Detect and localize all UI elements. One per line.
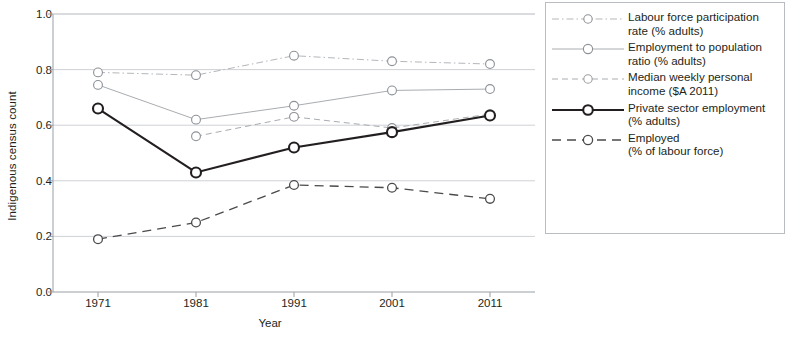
data-point <box>388 57 397 66</box>
legend-line-sample <box>550 10 626 28</box>
data-point <box>192 71 201 80</box>
data-point <box>388 183 397 192</box>
data-point <box>289 142 299 152</box>
legend-item-employment-to-population[interactable]: Employment to population ratio (% adults… <box>550 40 780 67</box>
legend-label-private-sector-employment: Private sector employment (% adults) <box>626 101 765 128</box>
legend-item-private-sector-employment[interactable]: Private sector employment (% adults) <box>550 101 780 128</box>
data-point <box>486 60 495 69</box>
data-point <box>192 115 201 124</box>
data-point <box>192 132 201 141</box>
legend-label-median-weekly-income: Median weekly personal income ($A 2011) <box>626 70 752 97</box>
legend-key-private-sector-employment <box>550 101 626 119</box>
data-point <box>191 167 201 177</box>
legend-label-employment-to-population: Employment to population ratio (% adults… <box>626 40 762 67</box>
data-point <box>93 104 103 114</box>
legend-line-sample <box>550 40 626 58</box>
data-point <box>486 194 495 203</box>
legend-item-employed[interactable]: Employed (% of labour force) <box>550 131 780 158</box>
data-point <box>387 127 397 137</box>
data-point <box>388 86 397 95</box>
legend-key-employed <box>550 131 626 149</box>
data-point <box>192 218 201 227</box>
legend-label-labour-force-participation: Labour force participation rate (% adult… <box>626 10 759 37</box>
chart-plot-svg <box>0 0 540 337</box>
data-point <box>485 110 495 120</box>
chart-legend: Labour force participation rate (% adult… <box>545 2 785 234</box>
data-point <box>94 68 103 77</box>
legend-line-sample <box>550 101 626 119</box>
legend-item-median-weekly-income[interactable]: Median weekly personal income ($A 2011) <box>550 70 780 97</box>
data-point <box>290 112 299 121</box>
chart-figure: Indigenous census count Year 1.0 0.8 0.6… <box>0 0 789 337</box>
legend-label-employed: Employed (% of labour force) <box>626 131 723 158</box>
plot-area: Indigenous census count Year 1.0 0.8 0.6… <box>0 0 540 337</box>
legend-key-employment-to-population <box>550 40 626 58</box>
legend-line-sample <box>550 131 626 149</box>
legend-item-labour-force-participation[interactable]: Labour force participation rate (% adult… <box>550 10 780 37</box>
series-line-4 <box>98 185 490 239</box>
data-point <box>290 181 299 190</box>
data-point <box>486 85 495 94</box>
legend-key-median-weekly-income <box>550 70 626 88</box>
data-point <box>94 80 103 89</box>
data-point <box>290 51 299 60</box>
data-point <box>290 101 299 110</box>
legend-line-sample <box>550 70 626 88</box>
data-point <box>94 235 103 244</box>
legend-key-labour-force-participation <box>550 10 626 28</box>
